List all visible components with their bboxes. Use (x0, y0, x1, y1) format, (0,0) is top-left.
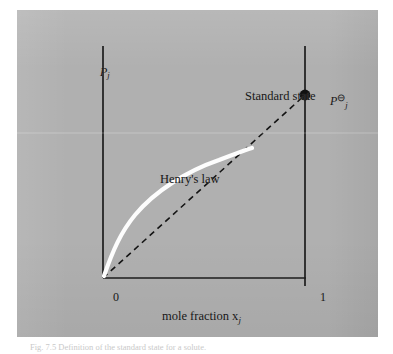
x-axis-tick-label-max: 1 (320, 291, 326, 303)
x-axis-tick-label-origin: 0 (113, 291, 119, 303)
henrys-law-label: Henry's law (160, 173, 220, 186)
henrys-law-line (103, 95, 305, 278)
y-axis-label: Pj (100, 66, 110, 80)
standard-state-label: Standard state (245, 90, 315, 103)
real-solute-curve (104, 148, 252, 276)
figure-caption: Fig. 7.5 Definition of the standard stat… (30, 342, 380, 353)
standard-state-symbol: P⊖j (330, 93, 348, 109)
figure-page: Pj Standard state P⊖j Henry's law 0 1 mo… (0, 0, 393, 354)
x-axis-label: mole fraction xj (162, 310, 241, 325)
figure-panel: Pj Standard state P⊖j Henry's law 0 1 mo… (17, 10, 378, 337)
